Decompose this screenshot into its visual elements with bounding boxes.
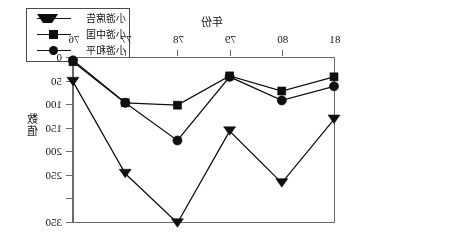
x-tick-label-78: 78 xyxy=(173,33,184,45)
legend-sample-triangle xyxy=(37,12,71,26)
y-tick-label-150: 150 xyxy=(46,122,63,134)
legend-sample-circle xyxy=(37,44,71,58)
data-point-triangle-79 xyxy=(224,127,236,136)
data-point-square-81 xyxy=(330,73,338,81)
y-axis-title-char-0: 数 xyxy=(26,113,40,125)
x-tick-label-76: 76 xyxy=(69,33,80,45)
data-point-circle-81 xyxy=(329,82,338,91)
legend-label-square: 小游中国 xyxy=(74,27,126,43)
data-point-triangle-76 xyxy=(67,77,79,86)
series-square xyxy=(69,58,338,109)
data-point-circle-78 xyxy=(173,136,182,145)
series-line-triangle xyxy=(73,82,334,223)
series-circle xyxy=(68,56,338,145)
series-layer xyxy=(72,58,334,224)
x-tick-78 xyxy=(177,50,178,56)
y-tick-label-50: 50 xyxy=(51,75,62,87)
data-point-circle-77 xyxy=(121,98,130,107)
x-tick-80 xyxy=(282,50,283,56)
x-tick-label-77: 77 xyxy=(121,33,132,45)
data-point-triangle-77 xyxy=(119,169,131,178)
series-line-square xyxy=(73,62,334,105)
data-point-triangle-80 xyxy=(276,179,288,188)
data-point-circle-79 xyxy=(225,72,234,81)
series-line-circle xyxy=(73,60,334,140)
y-tick-label-200: 200 xyxy=(46,145,63,157)
legend-item-triangle: 小游席告 xyxy=(30,11,126,27)
x-tick-77 xyxy=(125,50,126,56)
x-tick-label-79: 79 xyxy=(225,33,236,45)
legend-sample-square xyxy=(37,28,71,42)
data-point-square-80 xyxy=(278,87,286,95)
y-tick-label-350: 350 xyxy=(46,216,63,228)
y-tick-label-250: 250 xyxy=(46,169,63,181)
data-point-circle-80 xyxy=(277,96,286,105)
chart-figure: 小游席告 小游中国 小游和平 年份 818079787776 050100150 xyxy=(0,0,474,234)
data-point-triangle-81 xyxy=(328,115,340,124)
x-axis-title: 年份 xyxy=(201,13,223,29)
data-point-circle-76 xyxy=(68,56,77,65)
y-tick-label-100: 100 xyxy=(46,98,63,110)
data-point-square-78 xyxy=(173,101,181,109)
plot-area xyxy=(73,57,335,223)
y-axis-title: 数值 xyxy=(26,113,40,137)
y-axis-title-char-1: 值 xyxy=(26,125,40,137)
series-triangle xyxy=(67,77,340,227)
x-tick-79 xyxy=(230,50,231,56)
legend-label-triangle: 小游席告 xyxy=(74,11,126,27)
x-tick-label-80: 80 xyxy=(277,33,288,45)
x-tick-label-81: 81 xyxy=(330,33,341,45)
data-point-triangle-78 xyxy=(171,219,183,228)
square-marker-icon xyxy=(49,30,58,39)
y-tick-label-0: 0 xyxy=(57,51,63,63)
